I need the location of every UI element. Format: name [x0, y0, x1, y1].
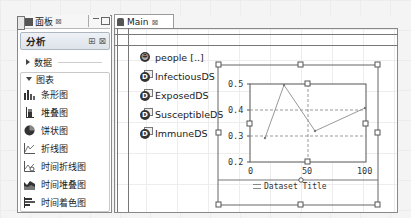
time-plot-chart[interactable] [0, 0, 411, 218]
chart-legend: Dataset Title [253, 182, 327, 191]
y-tick-label: 0.2 [228, 157, 243, 167]
x-tick-label: 50 [302, 166, 312, 176]
x-tick-label: 100 [357, 166, 372, 176]
legend-swatch [253, 184, 261, 189]
y-tick-label: 0.3 [228, 131, 243, 141]
x-tick-label: 0 [248, 166, 253, 176]
legend-label: Dataset Title [264, 182, 327, 191]
y-tick-label: 0.4 [228, 105, 243, 115]
y-tick-label: 0.5 [228, 79, 243, 89]
